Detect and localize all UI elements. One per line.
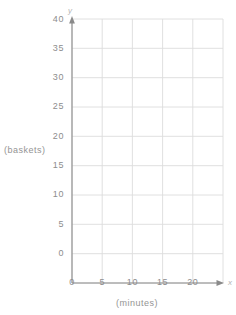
- y-axis-unit-label: (baskets): [4, 145, 46, 155]
- grid-and-axes: [0, 0, 236, 315]
- y-axis-line: [69, 16, 75, 283]
- y-tick-label-40: 40: [44, 14, 64, 24]
- x-tick-label-20: 20: [183, 277, 203, 287]
- graph-canvas: 40 35 30 25 20 15 10 5 0 0 5 10 15 20 y …: [0, 0, 236, 315]
- y-tick-label-0: 0: [44, 248, 64, 258]
- y-tick-label-15: 15: [44, 160, 64, 170]
- y-tick-label-25: 25: [44, 101, 64, 111]
- y-tick-label-20: 20: [44, 131, 64, 141]
- y-tick-label-10: 10: [44, 189, 64, 199]
- y-tick-label-35: 35: [44, 43, 64, 53]
- y-tick-label-30: 30: [44, 72, 64, 82]
- x-tick-label-15: 15: [153, 277, 173, 287]
- y-axis-variable-name: y: [68, 6, 72, 15]
- x-tick-label-5: 5: [92, 277, 112, 287]
- x-axis-variable-name: x: [228, 278, 232, 287]
- y-tick-label-5: 5: [44, 219, 64, 229]
- horizontal-gridlines: [72, 19, 223, 283]
- x-tick-label-10: 10: [122, 277, 142, 287]
- vertical-gridlines: [72, 19, 223, 283]
- x-tick-label-0: 0: [62, 277, 82, 287]
- x-axis-unit-label: (minutes): [116, 298, 158, 308]
